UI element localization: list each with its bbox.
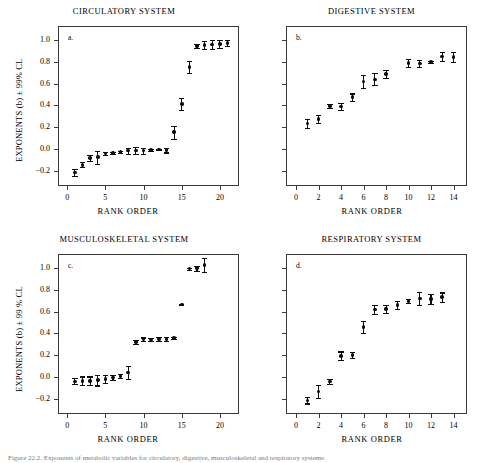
y-tick [282, 127, 286, 128]
data-point [380, 68, 392, 80]
data-point [346, 350, 358, 360]
x-tick-label: 4 [329, 193, 353, 202]
x-tick-label: 10 [132, 421, 156, 430]
x-tick [220, 414, 221, 418]
error-bar-cap-lower [338, 360, 343, 361]
x-tick [67, 186, 68, 190]
data-point [122, 364, 134, 381]
x-tick [220, 186, 221, 190]
error-bar-cap-lower [383, 313, 388, 314]
data-point-marker [317, 117, 321, 121]
panel-b-plot-area: b. 02468101214 [248, 0, 495, 228]
error-bar-cap-lower [103, 383, 108, 384]
data-point-marker [452, 55, 456, 59]
error-bar-cap-lower [133, 344, 138, 345]
x-tick-label: 0 [284, 193, 308, 202]
error-bar-cap-lower [406, 303, 411, 304]
data-point-marker [328, 380, 332, 384]
y-tick-label: 0.2 [24, 122, 50, 131]
x-tick [296, 186, 297, 190]
data-point [176, 302, 188, 307]
data-point [183, 59, 195, 75]
error-bar-cap-lower [225, 46, 230, 47]
y-tick-label: −0.2 [24, 394, 50, 403]
y-tick-label: 0.8 [24, 285, 50, 294]
data-point [414, 290, 426, 307]
y-tick [54, 399, 58, 400]
data-point-marker [351, 353, 355, 357]
x-tick [341, 186, 342, 190]
error-bar-cap-upper [451, 52, 456, 53]
data-point-marker [407, 61, 411, 65]
y-tick [282, 355, 286, 356]
y-tick-label: 0.6 [24, 307, 50, 316]
error-bar-cap-upper [179, 98, 184, 99]
error-bar-cap-upper [316, 385, 321, 386]
data-point [358, 319, 370, 336]
y-tick-label: 0.4 [24, 328, 50, 337]
y-tick [282, 62, 286, 63]
x-tick-label: 12 [419, 193, 443, 202]
data-point-marker [180, 102, 184, 106]
data-point-marker [373, 78, 377, 82]
x-tick-label: 10 [397, 421, 421, 430]
data-point-marker [362, 325, 366, 329]
error-bar-cap-lower [179, 110, 184, 111]
y-tick [54, 312, 58, 313]
data-point-marker [306, 399, 310, 403]
error-bar-cap-upper [187, 61, 192, 62]
x-tick-label: 10 [397, 193, 421, 202]
y-tick [54, 127, 58, 128]
data-point [335, 349, 347, 362]
error-bar-cap-upper [338, 351, 343, 352]
panel-a-circulatory: CIRCULATORY SYSTEM EXPONENTS (b) ± 99% C… [0, 0, 248, 228]
x-tick-label: 8 [374, 193, 398, 202]
x-tick [105, 414, 106, 418]
y-tick [282, 377, 286, 378]
y-tick [54, 377, 58, 378]
y-tick [54, 171, 58, 172]
x-tick [431, 186, 432, 190]
error-bar-cap-lower [95, 164, 100, 165]
error-bar-cap-lower [80, 167, 85, 168]
x-tick-label: 0 [55, 421, 79, 430]
x-tick-label: 5 [93, 421, 117, 430]
x-tick-label: 4 [329, 421, 353, 430]
y-tick [282, 290, 286, 291]
error-bar-cap-lower [451, 62, 456, 63]
data-point [403, 297, 415, 304]
x-tick [409, 414, 410, 418]
error-bar-cap-upper [361, 321, 366, 322]
y-tick [282, 84, 286, 85]
error-bar-cap-lower [141, 154, 146, 155]
error-bar-cap-upper [428, 294, 433, 295]
error-bar-cap-upper [383, 70, 388, 71]
data-point-marker [203, 263, 207, 267]
data-point [168, 124, 180, 141]
error-bar-cap-upper [350, 93, 355, 94]
y-tick [54, 333, 58, 334]
panel-a-plot-area: a. −0.20.00.20.40.60.81.005101520 [0, 0, 248, 228]
data-point [176, 96, 188, 112]
data-point-marker [429, 60, 433, 64]
error-bar-cap-upper [440, 52, 445, 53]
panel-d-letter: d. [296, 261, 302, 270]
data-point [403, 57, 415, 69]
data-point-marker [362, 80, 366, 84]
y-tick [282, 399, 286, 400]
panel-c-axes-frame [58, 254, 239, 414]
x-tick [144, 414, 145, 418]
error-bar-cap-lower [361, 88, 366, 89]
error-bar-cap-lower [361, 333, 366, 334]
error-bar-cap-lower [417, 67, 422, 68]
data-point-marker [188, 65, 192, 69]
y-tick [54, 149, 58, 150]
error-bar-cap-upper [361, 75, 366, 76]
error-bar-cap-upper [126, 366, 131, 367]
data-point [313, 383, 325, 400]
x-tick-label: 6 [352, 421, 376, 430]
y-tick [282, 312, 286, 313]
x-tick [454, 414, 455, 418]
x-tick [296, 414, 297, 418]
